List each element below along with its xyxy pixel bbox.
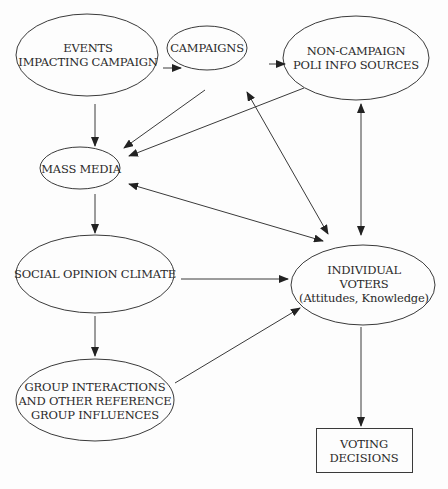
group-label-line2: AND OTHER REFERENCE bbox=[18, 394, 171, 408]
massmedia-label-line1: MASS MEDIA bbox=[41, 162, 121, 176]
edge-group-voters bbox=[175, 308, 300, 383]
edge-campaigns-voters bbox=[247, 92, 328, 234]
social-label-line1: SOCIAL OPINION CLIMATE bbox=[14, 267, 176, 281]
group-label-line1: GROUP INTERACTIONS bbox=[25, 380, 166, 394]
campaigns-label: CAMPAIGNS bbox=[168, 40, 246, 56]
events-label-line2: IMPACTING CAMPAIGN bbox=[18, 55, 157, 69]
diagram-canvas: EVENTS IMPACTING CAMPAIGN CAMPAIGNS NON-… bbox=[0, 0, 448, 489]
decisions-label: VOTING DECISIONS bbox=[316, 436, 412, 466]
social-label: SOCIAL OPINION CLIMATE bbox=[16, 266, 174, 282]
group-label: GROUP INTERACTIONS AND OTHER REFERENCE G… bbox=[16, 377, 174, 425]
decisions-label-line2: DECISIONS bbox=[330, 451, 399, 465]
campaigns-label-line1: CAMPAIGNS bbox=[170, 41, 244, 55]
noncampaign-label: NON-CAMPAIGN POLI INFO SOURCES bbox=[284, 42, 428, 74]
massmedia-label: MASS MEDIA bbox=[42, 161, 120, 177]
edge-massmedia-voters bbox=[129, 184, 323, 241]
events-label-line1: EVENTS bbox=[63, 41, 113, 55]
edge-campaigns-massmedia bbox=[124, 90, 205, 148]
decisions-label-line1: VOTING bbox=[340, 437, 388, 451]
noncampaign-label-line2: POLI INFO SOURCES bbox=[293, 58, 419, 72]
voters-label-line3: (Attitudes, Knowledge) bbox=[299, 291, 429, 305]
voters-label-line1: INDIVIDUAL bbox=[327, 263, 401, 277]
events-label: EVENTS IMPACTING CAMPAIGN bbox=[18, 36, 158, 74]
voters-label-line2: VOTERS bbox=[340, 277, 389, 291]
noncampaign-label-line1: NON-CAMPAIGN bbox=[307, 44, 406, 58]
group-label-line3: GROUP INFLUENCES bbox=[31, 408, 159, 422]
voters-label: INDIVIDUAL VOTERS (Attitudes, Knowledge) bbox=[292, 260, 436, 308]
